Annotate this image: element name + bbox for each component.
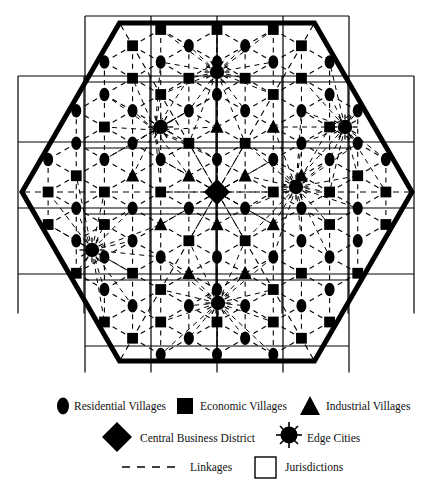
economic-village-node <box>240 73 251 84</box>
legend-label: Central Business District <box>140 432 256 444</box>
residential-village-node <box>353 201 363 215</box>
economic-village-node <box>155 24 166 35</box>
residential-village-node <box>212 348 222 362</box>
economic-village-node <box>155 187 166 198</box>
industrial-village-node <box>126 168 139 181</box>
residential-village-node <box>240 104 250 118</box>
residential-village-node <box>99 55 109 69</box>
residential-village-node <box>128 104 138 118</box>
open-square-icon <box>255 457 276 478</box>
residential-village-node <box>268 55 278 69</box>
residential-village-node <box>268 153 278 167</box>
legend-label: Economic Villages <box>200 400 287 413</box>
economic-village-node <box>99 317 110 328</box>
economic-village-node <box>127 73 138 84</box>
edge-city-node <box>148 115 173 140</box>
industrial-village-icon <box>300 396 320 415</box>
residential-village-node <box>99 153 109 167</box>
industrial-village-node <box>154 217 167 230</box>
residential-village-node <box>212 153 222 167</box>
residential-village-node <box>128 299 138 313</box>
legend-item-central-business-district: Central Business District <box>102 422 256 452</box>
economic-village-node <box>43 187 54 198</box>
economic-village-node <box>296 40 307 51</box>
economic-village-node <box>240 235 251 246</box>
residential-village-node <box>71 136 81 150</box>
residential-village-node <box>240 39 250 53</box>
economic-village-node <box>324 187 335 198</box>
residential-village-node <box>71 104 81 118</box>
economic-village-node <box>155 89 166 100</box>
edge-city-node <box>333 115 358 140</box>
residential-village-node <box>184 39 194 53</box>
residential-village-node <box>184 331 194 345</box>
residential-village-node <box>99 88 109 102</box>
legend-item-economic-villages: Economic Villages <box>177 398 287 414</box>
industrial-village-node <box>182 266 195 279</box>
economic-village-icon <box>177 398 193 414</box>
residential-village-node <box>325 250 335 264</box>
residential-village-node <box>353 234 363 248</box>
legend-item-edge-cities: Edge Cities <box>276 422 361 448</box>
legend-item-residential-villages: Residential Villages <box>57 398 167 415</box>
residential-village-node <box>240 299 250 313</box>
residential-village-node <box>184 201 194 215</box>
residential-village-node <box>71 234 81 248</box>
residential-village-node <box>156 250 166 264</box>
residential-village-node <box>240 331 250 345</box>
economic-village-node <box>183 235 194 246</box>
legend-item-industrial-villages: Industrial Villages <box>300 396 411 415</box>
economic-village-node <box>99 187 110 198</box>
economic-village-node <box>212 24 223 35</box>
residential-village-node <box>296 104 306 118</box>
residential-village-node <box>296 234 306 248</box>
economic-village-node <box>127 268 138 279</box>
economic-village-node <box>380 187 391 198</box>
legend-label: Linkages <box>190 461 233 474</box>
central-place-diagram <box>0 0 434 390</box>
economic-village-node <box>71 170 82 181</box>
economic-village-node <box>71 268 82 279</box>
residential-village-node <box>296 136 306 150</box>
industrial-village-node <box>239 266 252 279</box>
residential-village-node <box>99 250 109 264</box>
economic-village-node <box>268 187 279 198</box>
economic-village-node <box>127 40 138 51</box>
residential-village-icon <box>57 398 69 415</box>
industrial-village-node <box>267 217 280 230</box>
residential-village-node <box>212 88 222 102</box>
residential-village-node <box>268 348 278 362</box>
economic-village-node <box>127 333 138 344</box>
residential-village-node <box>156 153 166 167</box>
industrial-village-node <box>210 217 223 230</box>
economic-village-node <box>212 317 223 328</box>
industrial-village-node <box>210 120 223 133</box>
residential-village-node <box>156 55 166 69</box>
economic-village-node <box>324 317 335 328</box>
legend-item-linkages: Linkages <box>122 461 233 474</box>
economic-village-node <box>43 219 54 230</box>
residential-village-node <box>381 153 391 167</box>
economic-village-node <box>155 317 166 328</box>
residential-village-node <box>43 153 53 167</box>
economic-village-node <box>183 73 194 84</box>
legend-label: Industrial Villages <box>326 400 411 413</box>
economic-village-node <box>296 73 307 84</box>
central-business-district-node <box>204 179 230 205</box>
residential-village-node <box>353 136 363 150</box>
residential-village-node <box>268 250 278 264</box>
legend: Residential Villages Economic Villages I… <box>0 390 434 494</box>
economic-village-node <box>324 219 335 230</box>
residential-village-node <box>99 283 109 297</box>
economic-village-node <box>155 284 166 295</box>
economic-village-node <box>352 268 363 279</box>
residential-village-node <box>240 201 250 215</box>
economic-village-node <box>268 317 279 328</box>
residential-village-node <box>128 234 138 248</box>
residential-village-node <box>325 88 335 102</box>
economic-village-node <box>268 284 279 295</box>
industrial-village-node <box>239 168 252 181</box>
residential-village-node <box>128 136 138 150</box>
residential-village-node <box>212 250 222 264</box>
residential-village-node <box>128 201 138 215</box>
